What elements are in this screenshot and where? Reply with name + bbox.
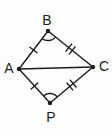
edge-AC (19, 67, 93, 69)
vertex-label-C: C (99, 58, 109, 74)
tick-mark-AB-1 (30, 47, 37, 52)
geometry-diagram: ABCP (0, 0, 112, 133)
vertex-label-P: P (46, 109, 55, 125)
angle-arc-B (42, 37, 55, 41)
vertex-dot-P (48, 101, 52, 105)
edge-PC (50, 67, 93, 103)
vertex-dot-B (46, 29, 50, 33)
angle-arc-P (44, 94, 58, 97)
edge-BC (48, 31, 93, 67)
vertex-label-A: A (4, 60, 14, 76)
vertex-label-B: B (42, 12, 51, 28)
geometry-figure: ABCP (0, 0, 112, 133)
vertex-dot-C (91, 65, 95, 69)
vertex-dot-A (17, 67, 21, 71)
